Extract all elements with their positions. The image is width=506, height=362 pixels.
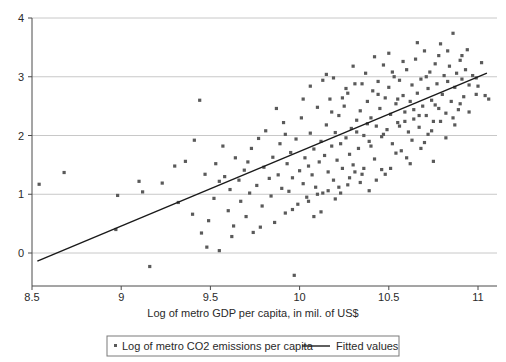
scatter-point [330, 144, 333, 147]
scatter-point [382, 133, 385, 136]
scatter-point [184, 160, 187, 163]
scatter-point [435, 82, 438, 85]
scatter-point [352, 163, 355, 166]
scatter-point [423, 49, 426, 52]
legend: Log of metro CO2 emissions per capita Fi… [107, 336, 399, 356]
scatter-point [385, 128, 388, 131]
scatter-point [434, 62, 437, 65]
scatter-point [446, 49, 449, 52]
scatter-point [321, 191, 324, 194]
scatter-point [414, 58, 417, 61]
scatter-point [450, 100, 453, 103]
scatter-point [376, 93, 379, 96]
scatter-point [400, 149, 403, 152]
scatter-point [344, 136, 347, 139]
scatter-point [430, 129, 433, 132]
scatter-point [218, 180, 221, 183]
scatter-point [198, 99, 201, 102]
scatter-point [426, 87, 429, 90]
scatter-point [434, 103, 437, 106]
scatter-point [327, 189, 330, 192]
scatter-point [389, 167, 392, 170]
scatter-point [348, 176, 351, 179]
scatter-point [228, 188, 231, 191]
scatter-point [269, 194, 272, 197]
scatter-point [391, 70, 394, 73]
scatter-point [193, 139, 196, 142]
scatter-point [425, 75, 428, 78]
scatter-point [230, 235, 233, 238]
x-tick-label-9.5: 9.5 [203, 291, 218, 303]
scatter-point [443, 74, 446, 77]
scatter-point [264, 129, 267, 132]
scatter-point [312, 147, 315, 150]
scatter-point [309, 132, 312, 135]
scatter-point [371, 89, 374, 92]
scatter-point [487, 97, 490, 100]
y-tick-label-3: 3 [18, 71, 24, 83]
scatter-point [287, 190, 290, 193]
scatter-point [426, 133, 429, 136]
scatter-point [439, 42, 442, 45]
scatter-point [405, 156, 408, 159]
scatter-point [339, 142, 342, 145]
scatter-point [384, 173, 387, 176]
scatter-point [273, 221, 276, 224]
scatter-point [325, 73, 328, 76]
scatter-point [382, 63, 385, 66]
x-tick-label-10.5: 10.5 [378, 291, 399, 303]
legend-label-scatter: Log of metro CO2 emissions per capita [122, 340, 314, 352]
scatter-point [214, 162, 217, 165]
y-tick-label-1: 1 [18, 188, 24, 200]
scatter-point [437, 54, 440, 57]
scatter-point [412, 117, 415, 120]
scatter-point [401, 94, 404, 97]
scatter-point [466, 48, 469, 51]
scatter-point [430, 99, 433, 102]
scatter-point [330, 110, 333, 113]
scatter-point [203, 173, 206, 176]
scatter-point [360, 82, 363, 85]
scatter-point [316, 193, 319, 196]
scatter-point [480, 61, 483, 64]
scatter-point [421, 105, 424, 108]
scatter-point [243, 169, 246, 172]
scatter-point [289, 151, 292, 154]
scatter-point [212, 197, 215, 200]
scatter-point [453, 123, 456, 126]
scatter-point [323, 154, 326, 157]
scatter-point [316, 106, 319, 109]
scatter-point [278, 142, 281, 145]
scatter-point [321, 79, 324, 82]
scatter-point [259, 226, 262, 229]
scatter-point [359, 181, 362, 184]
scatter-point [300, 116, 303, 119]
scatter-point [425, 114, 428, 117]
scatter-point [368, 140, 371, 143]
scatter-point [369, 116, 372, 119]
scatter-point [373, 55, 376, 58]
scatter-point [255, 184, 258, 187]
scatter-point [352, 65, 355, 68]
scatter-point [335, 159, 338, 162]
scatter-point [302, 97, 305, 100]
scatter-point [362, 134, 365, 137]
scatter-point [355, 130, 358, 133]
scatter-point [476, 85, 479, 88]
scatter-point [334, 131, 337, 134]
scatter-point [280, 187, 283, 190]
scatter-point [200, 231, 203, 234]
scatter-point [141, 190, 144, 193]
scatter-point [327, 170, 330, 173]
scatter-point [332, 179, 335, 182]
scatter-point [393, 75, 396, 78]
x-tick-label-10: 10 [293, 291, 305, 303]
scatter-point [418, 126, 421, 129]
scatter-point [310, 173, 313, 176]
scatter-point [38, 183, 41, 186]
scatter-point [460, 54, 463, 57]
scatter-point [451, 32, 454, 35]
scatter-point [286, 162, 289, 165]
scatter-point [246, 160, 249, 163]
scatter-point [437, 107, 440, 110]
